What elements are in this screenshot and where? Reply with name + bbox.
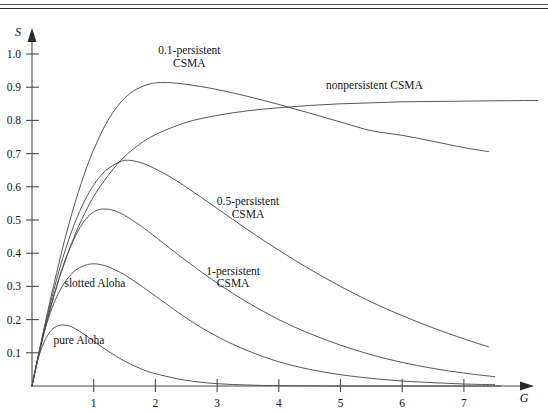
curve-1-persistent-csma <box>32 209 495 386</box>
x-tick-label: 1 <box>91 397 97 409</box>
y-tick-label: 0.7 <box>7 148 22 160</box>
curve-label-line: CSMA <box>232 208 265 220</box>
x-axis-arrowhead <box>520 382 534 391</box>
y-tick-label: 0.5 <box>7 214 22 226</box>
y-axis-label: S <box>15 25 21 39</box>
y-tick-label: 0.4 <box>7 247 22 259</box>
curve-label-pure-aloha: pure Aloha <box>54 334 105 347</box>
curve-label-line: 1-persistent <box>206 265 260 278</box>
header-rule-upper <box>0 4 548 5</box>
y-tick-label: 0.6 <box>7 181 22 193</box>
y-tick-label: 0.9 <box>7 81 22 93</box>
curve-label-p01: 0.1-persistentCSMA <box>158 44 221 69</box>
y-tick-label: 0.3 <box>7 280 22 292</box>
x-tick-label: 2 <box>153 397 159 409</box>
x-tick-label: 4 <box>276 397 282 409</box>
curve-label-p1: 1-persistentCSMA <box>206 265 260 290</box>
curve-annotations: 0.1-persistentCSMAnonpersistent CSMA0.5-… <box>54 44 424 347</box>
x-axis-ticks: 1234567 <box>91 379 467 409</box>
curves-group <box>32 82 538 386</box>
throughput-chart: S G 1.00.90.80.70.60.50.40.30.20.1 12345… <box>0 0 548 414</box>
curve-label-nonpersistent: nonpersistent CSMA <box>326 79 423 92</box>
x-tick-label: 6 <box>399 397 405 409</box>
y-tick-label: 1.0 <box>7 48 22 60</box>
curve-label-line: nonpersistent CSMA <box>326 79 423 92</box>
y-tick-label: 0.1 <box>7 347 22 359</box>
curve-label-line: CSMA <box>217 277 250 289</box>
x-tick-label: 3 <box>214 397 220 409</box>
curve-label-line: pure Aloha <box>54 334 105 347</box>
x-tick-label: 7 <box>461 397 467 409</box>
figure-container: S G 1.00.90.80.70.60.50.40.30.20.1 12345… <box>0 0 548 414</box>
y-tick-label: 0.8 <box>7 114 22 126</box>
y-tick-label: 0.2 <box>7 314 22 326</box>
curve-label-line: slotted Aloha <box>64 277 125 289</box>
x-axis-label: G <box>520 391 529 405</box>
y-axis-arrowhead <box>28 28 37 42</box>
curve-nonpersistent-csma <box>32 100 538 386</box>
curve-label-line: CSMA <box>173 57 206 69</box>
curve-label-p05: 0.5-persistentCSMA <box>217 195 280 220</box>
curve-label-slotted-aloha: slotted Aloha <box>64 277 125 289</box>
y-axis-ticks: 1.00.90.80.70.60.50.40.30.20.1 <box>7 48 39 359</box>
header-rule-lower <box>0 8 548 9</box>
x-tick-label: 5 <box>338 397 344 409</box>
curve-label-line: 0.1-persistent <box>158 44 221 57</box>
curve-label-line: 0.5-persistent <box>217 195 280 208</box>
